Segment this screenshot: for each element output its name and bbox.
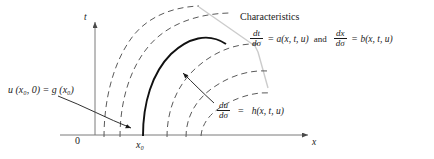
characteristic-curve-dashed (104, 6, 199, 137)
du-denominator: dσ (217, 110, 230, 120)
x-axis-label: x (312, 138, 316, 148)
characteristic-curve-solid (143, 38, 226, 136)
du-equation: du dσ = h(x, t, u) (215, 101, 284, 121)
t-axis-label: t (84, 13, 87, 23)
characteristics-figure: t x 0 x₀ u (x₀, 0) = g (x₀) Characterist… (0, 0, 434, 159)
dx-denominator: dσ (334, 38, 347, 48)
characteristic-curve-dashed (167, 44, 258, 137)
du-equals-sign: = (238, 105, 244, 116)
dx-equals-sign: = (352, 33, 358, 44)
dt-equals-sign: = (268, 33, 274, 44)
dt-denominator: dσ (250, 38, 263, 48)
du-equation-arrow (183, 73, 214, 103)
du-dsigma-fraction: du dσ (217, 101, 230, 121)
du-numerator: du (217, 101, 230, 110)
du-right-hand-side: h(x, t, u) (252, 106, 284, 116)
characteristics-title: Characteristics (240, 12, 299, 22)
dt-dsigma-fraction: dt dσ (250, 29, 263, 49)
figure-canvas (0, 0, 434, 159)
dx-numerator: dx (334, 29, 347, 38)
equations-conjunction: and (314, 34, 327, 44)
origin-label: 0 (75, 136, 80, 146)
dt-numerator: dt (251, 29, 262, 38)
x0-tick-label: x₀ (136, 140, 144, 150)
dt-right-hand-side: a(x, t, u) (277, 34, 309, 44)
dx-right-hand-side: b(x, t, u) (360, 34, 392, 44)
initial-condition-label: u (x₀, 0) = g (x₀) (8, 85, 74, 95)
dx-dsigma-fraction: dx dσ (334, 29, 347, 49)
characteristic-odes: dt dσ = a(x, t, u) and dx dσ = b(x, t, u… (248, 29, 393, 49)
